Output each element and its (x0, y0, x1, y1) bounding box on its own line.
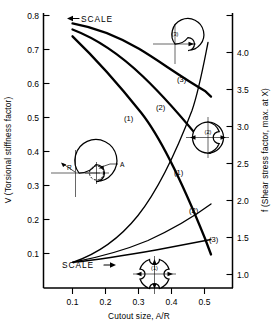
y2-tick-label-2.0: 2.0 (237, 196, 249, 206)
inset-3-label: (3) (172, 31, 179, 37)
y-tick-label-0.8: 0.8 (27, 11, 39, 21)
y2-tick-label-1.0: 1.0 (237, 270, 249, 280)
inset-1-load-arrow-top-icon (152, 259, 156, 265)
scale-top-left-arrow-icon (67, 16, 73, 21)
y-tick-label-0.2: 0.2 (27, 215, 39, 225)
inset-case-3: (3) (153, 19, 204, 64)
x-tick-label-0.2: 0.2 (100, 297, 112, 307)
inset-main-section: R A (51, 140, 125, 197)
y2-tick-label-3.5: 3.5 (237, 85, 249, 95)
x-tick-label-0.3: 0.3 (133, 297, 145, 307)
inset-3-load-arrow-icon (189, 42, 195, 46)
inset-1-label: (1) (151, 265, 158, 271)
curve-label-f-3: (3) (209, 235, 219, 244)
y-tick-label-0.4: 0.4 (27, 147, 39, 157)
curve-label-V-2: (2) (156, 103, 166, 112)
y-axis-title-right: f (Shear stress factor, max. at X) (260, 88, 270, 212)
y-tick-label-0.1: 0.1 (27, 249, 39, 259)
radius-label: R (67, 164, 72, 171)
curve-label-f-2: (2) (189, 206, 199, 215)
scale-bottom-right-arrow-icon (110, 262, 116, 267)
x-tick-label-0.4: 0.4 (166, 297, 178, 307)
right-axis-ticks: 4.0 3.5 3.0 2.5 2.0 1.5 1.0 (227, 16, 250, 280)
y2-tick-label-2.5: 2.5 (237, 159, 249, 169)
radius-arrowhead-icon (61, 163, 66, 168)
curve-label-V-1: (1) (124, 114, 134, 123)
x-axis-title: Cutout size, A/R (108, 311, 170, 321)
y-axis-title-left: V (Torsional stiffness factor) (3, 97, 13, 204)
y2-tick-label-3.0: 3.0 (237, 122, 249, 132)
scale-bottom-annotation: SCALE (62, 260, 116, 270)
inset-1-load-arrow-right-icon (168, 272, 174, 276)
inset-2-label: (2) (205, 129, 212, 135)
chart-canvas: 0.8 0.7 0.6 0.5 0.4 0.3 0.2 0.1 4.0 3.5 … (0, 0, 276, 331)
torsion-chart-figure: 0.8 0.7 0.6 0.5 0.4 0.3 0.2 0.1 4.0 3.5 … (0, 0, 276, 331)
curve-label-V-3: (3) (177, 75, 187, 84)
y-tick-label-0.6: 0.6 (27, 79, 39, 89)
scale-top-annotation: SCALE (67, 14, 113, 24)
curve-V-2 (73, 30, 211, 153)
x-tick-label-0.1: 0.1 (67, 297, 79, 307)
scale-top-label: SCALE (81, 14, 113, 24)
y2-tick-label-4.0: 4.0 (237, 48, 249, 58)
y2-tick-label-1.5: 1.5 (237, 233, 249, 243)
y-tick-label-0.5: 0.5 (27, 113, 39, 123)
cutout-label: A (120, 161, 125, 168)
x-tick-label-0.5: 0.5 (199, 297, 211, 307)
left-axis-ticks: 0.8 0.7 0.6 0.5 0.4 0.3 0.2 0.1 (27, 11, 49, 259)
y-tick-label-0.7: 0.7 (27, 45, 39, 55)
curve-label-f-1: (1) (174, 168, 184, 177)
inset-main-outline (75, 140, 117, 182)
y-tick-label-0.3: 0.3 (27, 181, 39, 191)
x-axis-ticks: 0.1 0.2 0.3 0.4 0.5 (67, 288, 211, 307)
inset-case-2: (2) (186, 117, 229, 158)
inset-1-load-arrow-left-icon (136, 272, 142, 276)
